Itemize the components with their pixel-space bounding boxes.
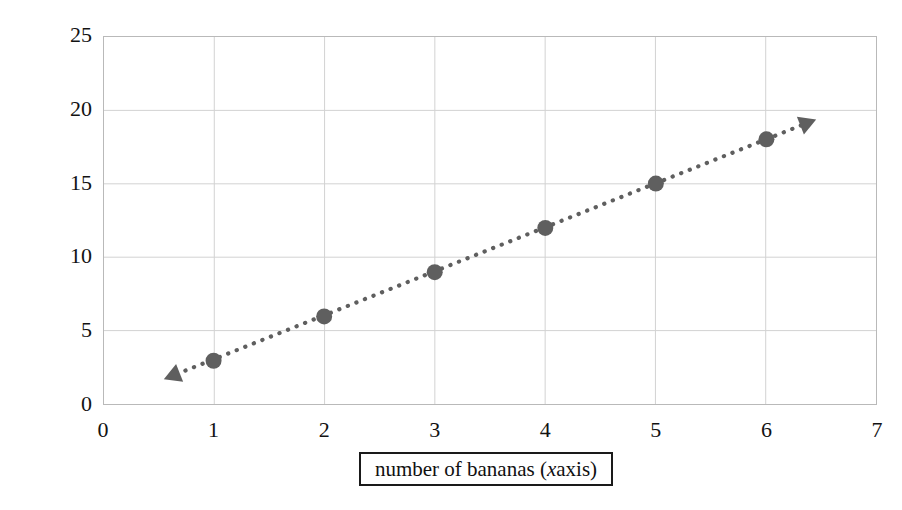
x-axis-tick-label: 1 (194, 419, 234, 441)
x-axis-tick-label: 3 (415, 419, 455, 441)
x-axis-title: number of bananas (x axis) (359, 452, 613, 486)
y-axis-tick-label: 25 (46, 24, 92, 46)
x-axis-tick-label: 2 (304, 419, 344, 441)
gridlines (104, 37, 876, 404)
x-axis-tick-label: 5 (636, 419, 676, 441)
x-axis-tick-label: 6 (746, 419, 786, 441)
x-axis-tick-label: 0 (83, 419, 123, 441)
x-axis-tick-label: 4 (525, 419, 565, 441)
y-axis-title-wrapper: number of backflips (y axis) (20, 70, 54, 358)
plot-area (103, 36, 877, 405)
y-axis-tick-label: 0 (46, 393, 92, 415)
x-axis-tick-label: 7 (857, 419, 897, 441)
x-axis-title-prefix: number of bananas ( (375, 459, 547, 480)
x-axis-title-suffix: axis) (556, 459, 597, 480)
x-axis-title-variable: x (547, 459, 556, 480)
chart-container: 0510152025 01234567 number of bananas (x… (0, 0, 902, 510)
